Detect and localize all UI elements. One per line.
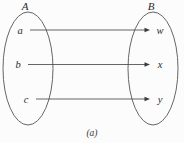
function-diagram-figure: A B a b c w x y (a): [0, 0, 184, 143]
set-b-label: B: [148, 0, 155, 12]
set-a-label: A: [21, 0, 29, 12]
figure-background: [0, 0, 184, 143]
element-y-label: y: [157, 94, 163, 105]
diagram-canvas: A B a b c w x y (a): [0, 0, 184, 143]
element-x-label: x: [157, 59, 163, 70]
element-a-label: a: [17, 25, 22, 36]
element-b-label: b: [15, 59, 20, 70]
element-c-label: c: [24, 94, 29, 105]
figure-caption: (a): [86, 128, 97, 139]
element-w-label: w: [156, 25, 163, 36]
